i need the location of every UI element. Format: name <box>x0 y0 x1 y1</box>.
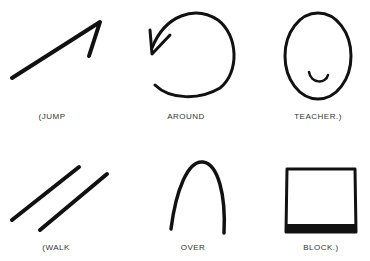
around-symbol-icon <box>150 13 234 96</box>
label-over: OVER <box>181 243 206 252</box>
block-symbol-icon <box>286 169 356 233</box>
label-walk: (WALK <box>42 243 70 252</box>
walk-symbol-icon <box>12 167 107 230</box>
label-jump: (JUMP <box>39 112 66 121</box>
symbols-canvas <box>0 0 370 261</box>
over-symbol-icon <box>171 162 224 233</box>
label-block: BLOCK.) <box>303 243 339 252</box>
label-around: AROUND <box>167 112 205 121</box>
label-teacher: TEACHER.) <box>294 112 342 121</box>
jump-symbol-icon <box>12 22 100 78</box>
teacher-symbol-icon <box>285 13 351 99</box>
